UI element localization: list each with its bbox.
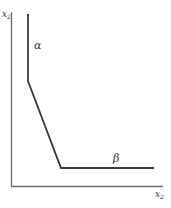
isoquant-curve: [28, 14, 154, 168]
isoquant-diagram: x2 x2 α β: [0, 0, 171, 208]
alpha-segment-label: α: [34, 39, 42, 52]
beta-segment-label: β: [112, 152, 119, 165]
x-axis-label: x2: [155, 189, 164, 200]
y-axis-label: x2: [2, 9, 11, 20]
